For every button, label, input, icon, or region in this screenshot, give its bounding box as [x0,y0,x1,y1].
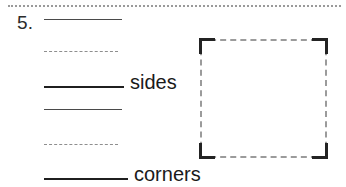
answer-blank-row-sides[interactable]: sides [44,68,124,88]
answer-blank-line[interactable] [44,178,128,180]
answer-blank-line[interactable] [44,109,122,110]
square-corner-top-right-icon [312,38,328,54]
square-corner-top-left-icon [199,38,215,54]
square-shape-figure [200,39,327,158]
answer-blank-row[interactable] [44,32,118,52]
answer-blank-label-corners: corners [134,163,201,185]
answer-blank-row[interactable] [44,0,122,20]
square-corner-bottom-right-icon [312,143,328,159]
worksheet-page: 5. sides corners [0,0,346,187]
answer-blank-line[interactable] [44,51,118,52]
square-edge-bottom-icon [200,156,327,158]
square-edge-right-icon [325,39,327,158]
answer-blank-line[interactable] [44,19,122,20]
answer-blank-line[interactable] [44,86,124,88]
question-number: 5. [17,13,33,33]
answer-blank-row[interactable] [44,125,118,145]
square-corner-bottom-left-icon [199,143,215,159]
square-edge-top-icon [200,39,327,41]
answer-blank-line[interactable] [44,144,118,145]
answer-blank-row-corners[interactable]: corners [44,160,128,180]
square-edge-left-icon [200,39,202,158]
answer-blank-row[interactable] [44,90,122,110]
answer-blank-label-sides: sides [130,71,177,93]
